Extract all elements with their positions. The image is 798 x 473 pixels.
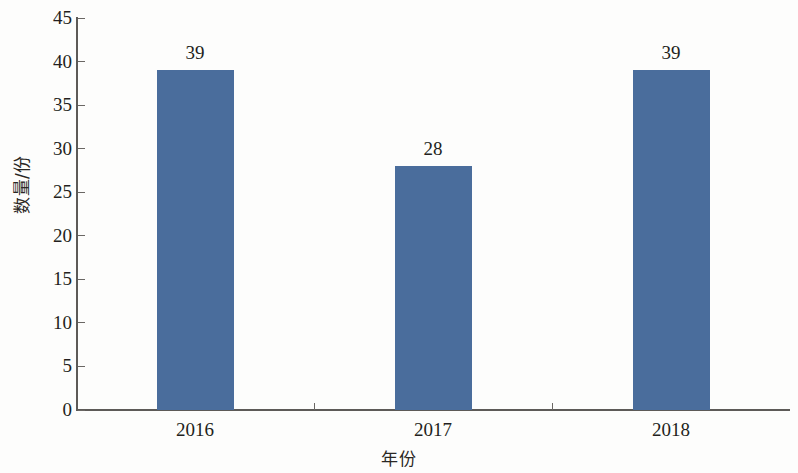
y-tick-label: 30	[12, 139, 72, 158]
x-tick-mark	[314, 403, 315, 410]
x-tick-mark	[552, 403, 553, 410]
y-tick-mark	[78, 279, 85, 280]
y-tick-mark	[78, 105, 85, 106]
x-axis-title: 年份	[0, 445, 798, 470]
y-tick-label: 10	[12, 313, 72, 332]
bar-chart: 数量/份 051015202530354045 392839 201620172…	[0, 0, 798, 473]
bar-2018	[633, 70, 710, 410]
y-tick-mark	[78, 235, 85, 236]
bar-value-label: 39	[611, 42, 731, 64]
y-tick-label: 0	[12, 400, 72, 419]
y-tick-label: 40	[12, 52, 72, 71]
x-tick-label-2017: 2017	[353, 419, 513, 441]
y-tick-label: 35	[12, 95, 72, 114]
y-tick-mark	[78, 61, 85, 62]
y-tick-label: 15	[12, 269, 72, 288]
bar-value-label: 39	[135, 42, 255, 64]
bar-2017	[395, 166, 472, 410]
y-tick-mark	[78, 410, 85, 411]
y-tick-label: 45	[12, 8, 72, 27]
bar-2016	[157, 70, 234, 410]
y-axis-line	[76, 17, 78, 411]
y-tick-label: 5	[12, 356, 72, 375]
y-tick-label: 25	[12, 182, 72, 201]
y-tick-mark	[78, 366, 85, 367]
x-tick-label-2016: 2016	[115, 419, 275, 441]
y-tick-mark	[78, 192, 85, 193]
y-tick-mark	[78, 322, 85, 323]
y-tick-mark	[78, 18, 85, 19]
y-tick-label: 20	[12, 226, 72, 245]
x-tick-label-2018: 2018	[591, 419, 751, 441]
y-tick-mark	[78, 148, 85, 149]
bar-value-label: 28	[373, 138, 493, 160]
